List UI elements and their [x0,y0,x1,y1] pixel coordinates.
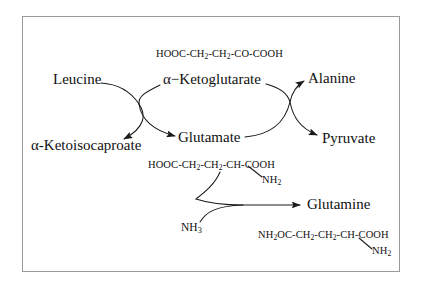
formula-glutamine-amine: NH2 [372,246,391,258]
formula-glutamate-main: HOOC-CH2-CH2-CH-COOH [148,160,275,172]
node-ketoglutarate: α−Ketoglutarate [163,72,261,87]
ammonia-label: NH [181,221,198,233]
formula-glutamine-main: NH2OC-CH2-CH2-CH-COOH [258,230,389,242]
ammonia-subscript: 3 [198,226,202,235]
formula-glutamate-amine: NH2 [262,175,281,187]
node-pyruvate: Pyruvate [322,131,375,146]
node-alanine: Alanine [308,71,355,86]
node-leucine: Leucine [53,72,101,87]
node-ammonia: NH3 [181,222,202,236]
formula-ketoglutarate: HOOC-CH2-CH2-CO-COOH [156,49,283,61]
node-ketoisocaproate: α-Ketoisocaproate [31,138,141,153]
node-glutamate: Glutamate [178,130,240,145]
diagram-canvas: Leucine α-Ketoisocaproate α−Ketoglutarat… [0,0,421,286]
node-glutamine: Glutamine [307,197,370,212]
